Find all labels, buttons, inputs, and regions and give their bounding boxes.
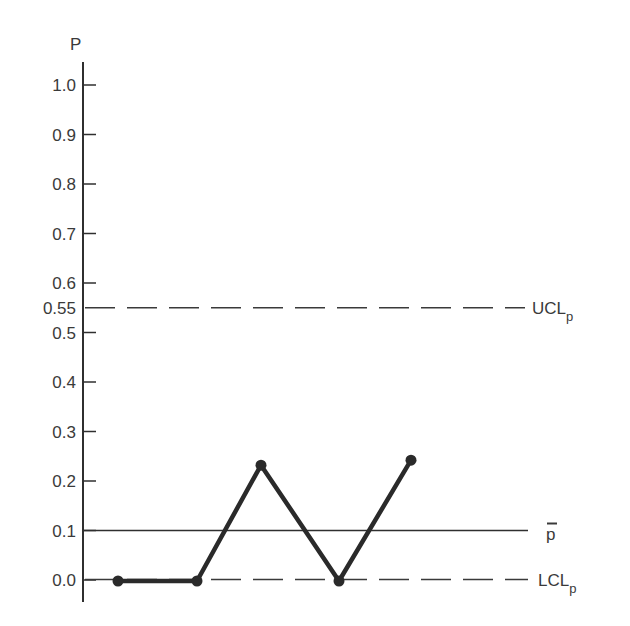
y-tick-label: 0.6 [52, 274, 76, 293]
svg-text:LCLp: LCLp [538, 571, 576, 596]
y-axis-ticks: 0.00.10.20.30.40.50.60.70.80.91.00.55 [43, 76, 96, 590]
data-point-marker [256, 460, 267, 471]
y-tick-label: 0.9 [52, 126, 76, 145]
ucl-label-sub: p [566, 309, 573, 324]
center-label-text: p [546, 525, 555, 544]
data-series-markers [113, 455, 417, 587]
data-point-marker [406, 455, 417, 466]
data-series-line [118, 460, 411, 581]
y-tick-label: 1.0 [52, 76, 76, 95]
y-tick-label-ucl: 0.55 [43, 299, 76, 318]
data-point-marker [192, 576, 203, 587]
lcl-label-main: LCL [538, 571, 569, 590]
y-tick-label: 0.5 [52, 324, 76, 343]
y-tick-label: 0.7 [52, 225, 76, 244]
y-tick-label: 0.2 [52, 472, 76, 491]
y-tick-label: 0.8 [52, 175, 76, 194]
y-tick-label: 0.0 [52, 571, 76, 590]
ucl-label-main: UCL [532, 299, 566, 318]
data-point-marker [113, 576, 124, 587]
data-point-marker [334, 576, 345, 587]
lcl-label-sub: p [569, 581, 576, 596]
y-tick-label: 0.1 [52, 522, 76, 541]
ucl-label: UCLp [532, 299, 573, 324]
lcl-label: LCLp [538, 571, 576, 596]
y-tick-label: 0.4 [52, 373, 76, 392]
svg-text:UCLp: UCLp [532, 299, 573, 324]
y-tick-label: 0.3 [52, 423, 76, 442]
center-label: p [546, 524, 557, 544]
y-axis-title: P [70, 35, 81, 54]
p-control-chart: P 0.00.10.20.30.40.50.60.70.80.91.00.55 … [0, 0, 630, 626]
